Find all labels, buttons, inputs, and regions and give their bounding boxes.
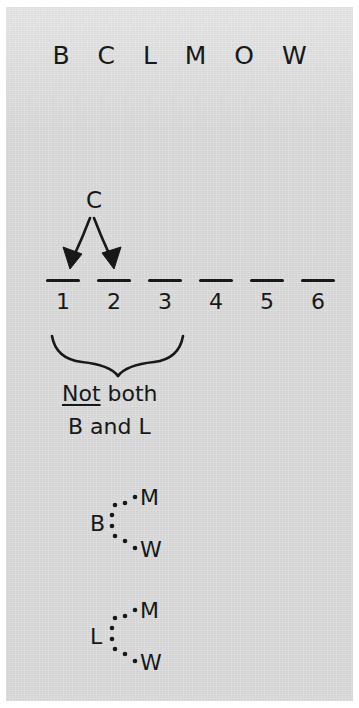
pair-target-l-m: M <box>140 598 159 623</box>
brace-blanks-1-to-3 <box>52 336 183 376</box>
blank-rule <box>97 279 131 282</box>
handdrawn-overlay <box>6 7 353 701</box>
blank-slot-3[interactable]: 3 <box>146 279 184 313</box>
blank-slot-4[interactable]: 4 <box>197 279 235 313</box>
pair-source-b: B <box>90 511 105 536</box>
pair-target-b-m: M <box>140 485 159 510</box>
dotted-connectors-b <box>110 495 138 551</box>
arrow-c-to-blank-3 <box>94 218 121 269</box>
blank-number: 1 <box>44 291 82 313</box>
pair-source-l: L <box>90 624 102 649</box>
dotted-connectors-l <box>110 608 138 664</box>
constraint-emphasis-not: Not <box>62 381 101 406</box>
constraint-caption-line-2: B and L <box>68 414 151 439</box>
blank-rule <box>301 279 335 282</box>
blank-slot-1[interactable]: 1 <box>44 279 82 313</box>
blank-number: 3 <box>146 291 184 313</box>
blanks-row: 1 2 3 4 5 6 <box>6 279 353 337</box>
blank-rule <box>199 279 233 282</box>
letter-bank: B C L M O W <box>6 41 353 70</box>
scanned-paper-panel: B C L M O W C <box>6 7 353 701</box>
blank-number: 6 <box>299 291 337 313</box>
blank-slot-6[interactable]: 6 <box>299 279 337 313</box>
pair-target-l-w: W <box>140 650 162 675</box>
blank-slot-2[interactable]: 2 <box>95 279 133 313</box>
arrow-c-to-blank-1 <box>63 218 90 269</box>
arrow-source-label-c: C <box>86 187 102 213</box>
blank-number: 4 <box>197 291 235 313</box>
constraint-caption-line-1: Not both <box>62 381 158 406</box>
blank-rule <box>148 279 182 282</box>
blank-number: 5 <box>248 291 286 313</box>
blank-slot-5[interactable]: 5 <box>248 279 286 313</box>
blank-rule <box>250 279 284 282</box>
diagram-page: B C L M O W C <box>0 0 359 708</box>
constraint-caption-rest: both <box>101 381 158 406</box>
blank-rule <box>46 279 80 282</box>
pair-target-b-w: W <box>140 537 162 562</box>
blank-number: 2 <box>95 291 133 313</box>
